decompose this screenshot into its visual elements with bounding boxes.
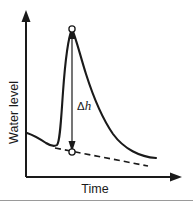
arrow-right-icon xyxy=(170,173,182,182)
arrow-up-icon xyxy=(22,10,31,22)
hydrograph-chart-canvas: Δh Water level Time xyxy=(0,0,193,208)
x-axis-label: Time xyxy=(81,182,109,196)
baseflow-point-marker xyxy=(69,149,75,155)
peak-point-marker xyxy=(69,26,75,32)
y-axis-label: Water level xyxy=(7,81,21,144)
delta-h-label: Δh xyxy=(77,98,91,113)
bottom-divider-rule xyxy=(0,200,193,201)
water-level-curve xyxy=(27,29,156,158)
hydrograph-figure: Δh Water level Time xyxy=(0,0,193,208)
